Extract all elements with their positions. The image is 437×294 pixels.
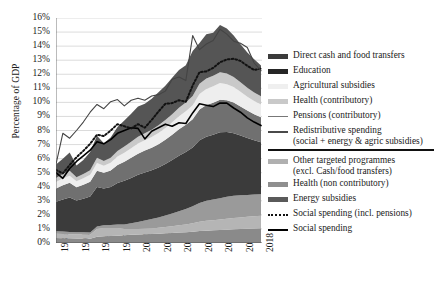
legend-swatch-icon (268, 193, 288, 206)
y-tick-10: 10% (20, 97, 50, 106)
legend-label-line2: (social + energy & agric subsidies) (293, 136, 423, 147)
chart-root: Percentage of GDP 0%1%2%3%4%5%6%7%8%9%10… (0, 0, 437, 294)
legend-label: Education (293, 65, 331, 76)
legend-swatch-icon (268, 95, 288, 108)
legend-swatch-icon (268, 110, 288, 123)
y-tick-5: 5% (20, 168, 50, 177)
legend-label: Agricultural subsidies (293, 80, 375, 91)
plot-area (56, 18, 262, 243)
legend-item-social-spending-incl-pensions[interactable]: Social spending (incl. pensions) (268, 208, 437, 221)
legend-group-secondary: Other targeted programmes(excl. Cash/foo… (268, 155, 437, 236)
legend-label: Direct cash and food transfers (293, 50, 405, 61)
y-tick-15: 15% (20, 27, 50, 36)
legend-item-agricultural-subsidies[interactable]: Agricultural subsidies (268, 80, 437, 93)
legend-swatch-icon (268, 65, 288, 78)
legend-swatch-icon (268, 125, 288, 138)
legend-swatch-icon (268, 208, 288, 221)
legend-item-health-non-contributory[interactable]: Health (non contributory) (268, 178, 437, 191)
y-tick-1: 1% (20, 224, 50, 233)
y-tick-3: 3% (20, 196, 50, 205)
legend-label-line2: (excl. Cash/food transfers) (293, 166, 395, 177)
legend-label: Other targeted programmes(excl. Cash/foo… (293, 155, 395, 176)
legend-item-redistributive-spending[interactable]: Redistributive spending(social + energy … (268, 125, 437, 146)
legend-swatch-icon (268, 80, 288, 93)
legend-item-direct-cash-and-food-transfers[interactable]: Direct cash and food transfers (268, 50, 437, 63)
y-tick-8: 8% (20, 126, 50, 135)
chart-legend: Direct cash and food transfersEducationA… (268, 50, 437, 238)
legend-label: Health (non contributory) (293, 178, 389, 189)
legend-item-social-spending[interactable]: Social spending (268, 223, 437, 236)
legend-item-energy-subsidies[interactable]: Energy subsidies (268, 193, 437, 206)
legend-label: Redistributive spending(social + energy … (293, 125, 423, 146)
legend-label: Pensions (contributory) (293, 110, 381, 121)
y-tick-9: 9% (20, 111, 50, 120)
legend-swatch-icon (268, 155, 288, 168)
legend-item-education[interactable]: Education (268, 65, 437, 78)
y-tick-6: 6% (20, 154, 50, 163)
y-tick-14: 14% (20, 41, 50, 50)
legend-swatch-icon (268, 178, 288, 191)
legend-swatch-icon (268, 223, 288, 236)
legend-label: Social spending (incl. pensions) (293, 208, 412, 219)
chart-svg (56, 18, 262, 243)
y-tick-11: 11% (20, 83, 50, 92)
y-tick-13: 13% (20, 55, 50, 64)
legend-label: Energy subsidies (293, 193, 356, 204)
legend-label: Social spending (293, 223, 352, 234)
legend-swatch-icon (268, 50, 288, 63)
y-tick-0: 0% (20, 238, 50, 247)
y-tick-4: 4% (20, 182, 50, 191)
y-tick-7: 7% (20, 140, 50, 149)
y-tick-12: 12% (20, 69, 50, 78)
legend-divider (268, 149, 434, 151)
legend-group-primary: Direct cash and food transfersEducationA… (268, 50, 437, 146)
legend-item-other-targeted-programmes[interactable]: Other targeted programmes(excl. Cash/foo… (268, 155, 437, 176)
y-tick-2: 2% (20, 210, 50, 219)
y-tick-16: 16% (20, 13, 50, 22)
legend-label: Health (contributory) (293, 95, 372, 106)
legend-item-pensions-contributory[interactable]: Pensions (contributory) (268, 110, 437, 123)
legend-item-health-contributory[interactable]: Health (contributory) (268, 95, 437, 108)
